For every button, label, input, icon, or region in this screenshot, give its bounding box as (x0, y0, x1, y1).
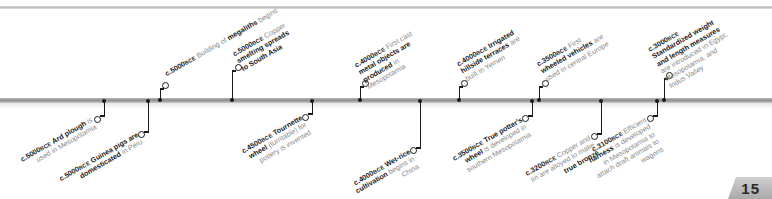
event-marker-ring (162, 82, 169, 89)
connector-stem (539, 86, 541, 100)
connector-elbow (100, 115, 105, 117)
page-number-badge: 15 (728, 177, 772, 199)
event-marker-ring (591, 133, 598, 140)
connector-stem (232, 70, 234, 100)
event-label: c.3000BCE Standardized weight and length… (647, 8, 740, 91)
connector-stem (601, 101, 603, 133)
page-number: 15 (741, 180, 760, 197)
top-rule (0, 6, 772, 9)
event-marker-ring (647, 115, 654, 122)
event-label: c.4500BCE Tournette wheel (turntable) fo… (232, 114, 312, 175)
event-label: c.3500BCE First wheeled vehicles are use… (535, 23, 613, 83)
connector-elbow (308, 113, 313, 115)
event-date: c.5000BCE (163, 53, 197, 78)
connector-stem (104, 101, 106, 115)
connector-stem (459, 86, 461, 100)
event-label: c.3500BCE True potter's wheel is develop… (444, 116, 533, 182)
connector-stem (532, 101, 534, 115)
event-label: c.4000BCE First cast metal objects are p… (353, 22, 441, 92)
connector-stem (360, 86, 362, 100)
connector-elbow (232, 70, 236, 72)
connector-stem (160, 88, 162, 100)
event-marker-ring (94, 116, 101, 123)
connector-stem (420, 101, 422, 147)
connector-stem (148, 101, 150, 131)
event-label: c.3100BCE Efficient harness is developed… (582, 116, 665, 188)
connector-stem (657, 101, 659, 115)
event-label: c.4000BCE Irrigated hillside terraces ar… (455, 22, 535, 83)
event-label: c.4000BCE Wet-rice cultivation begins in… (346, 148, 421, 199)
connector-stem (312, 101, 314, 113)
connector-stem (664, 78, 666, 100)
connector-elbow (539, 86, 543, 88)
